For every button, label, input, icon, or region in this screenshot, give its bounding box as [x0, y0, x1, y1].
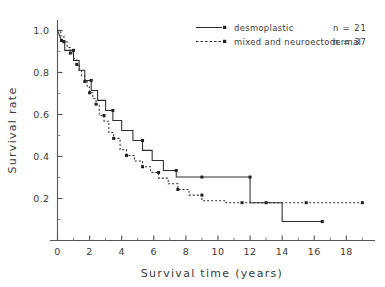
x-tick-label: 8 [183, 246, 189, 257]
y-axis-tick-labels: 0.20.40.60.81.0 [33, 25, 49, 204]
x-axis-title: Survival time (years) [141, 267, 283, 280]
x-tick-label: 4 [118, 246, 124, 257]
censor-mark [95, 103, 98, 106]
censor-marks [60, 39, 364, 223]
censor-mark [72, 49, 75, 52]
x-tick-label: 2 [86, 246, 92, 257]
y-axis-title: Survival rate [6, 86, 19, 173]
kaplan-meier-plot: 0.20.40.60.81.0 024681012141618 Survival… [0, 0, 385, 287]
censor-mark [249, 176, 252, 179]
legend-marker-mixed [223, 40, 226, 43]
censor-mark [103, 114, 106, 117]
censor-mark [141, 139, 144, 142]
x-tick-label: 6 [151, 246, 157, 257]
censor-mark [200, 194, 203, 197]
y-tick-label: 0.2 [33, 193, 49, 204]
x-tick-label: 18 [340, 246, 353, 257]
y-axis-major-ticks [58, 30, 63, 198]
y-tick-label: 0.4 [33, 151, 49, 162]
censor-mark [75, 63, 78, 66]
survival-chart-figure: 0.20.40.60.81.0 024681012141618 Survival… [0, 0, 385, 287]
x-axis-group: 024681012141618 [50, 236, 375, 257]
x-tick-label: 16 [308, 246, 321, 257]
censor-mark [321, 220, 324, 223]
censor-mark [305, 201, 308, 204]
censor-mark [88, 91, 91, 94]
x-tick-label: 12 [244, 246, 257, 257]
censor-mark [200, 176, 203, 179]
x-axis-tick-labels: 024681012141618 [54, 246, 352, 257]
censor-mark [141, 165, 144, 168]
censor-mark [62, 40, 65, 43]
censor-mark [361, 201, 364, 204]
censor-mark [157, 171, 160, 174]
censor-mark [69, 52, 72, 55]
censor-mark [83, 80, 86, 83]
censor-mark [241, 201, 244, 204]
legend: desmoplastic n = 21 mixed and neuroectod… [196, 23, 367, 47]
y-axis-group: 0.20.40.60.81.0 [33, 20, 62, 241]
legend-n-desmoplastic: n = 21 [333, 23, 367, 33]
x-tick-label: 0 [54, 246, 60, 257]
censor-mark [112, 137, 115, 140]
censor-mark [111, 109, 114, 112]
censor-mark [90, 79, 93, 82]
y-tick-label: 1.0 [33, 25, 49, 36]
censor-mark [265, 201, 268, 204]
censor-mark [125, 154, 128, 157]
censor-mark [175, 169, 178, 172]
legend-marker-desmoplastic [223, 26, 226, 29]
censor-mark [176, 188, 179, 191]
x-tick-label: 14 [276, 246, 289, 257]
survival-curves [58, 30, 363, 221]
y-tick-label: 0.8 [33, 67, 49, 78]
y-tick-label: 0.6 [33, 109, 49, 120]
curve-desmoplastic [58, 30, 323, 221]
legend-n-mixed: n = 37 [333, 37, 367, 47]
legend-label-desmoplastic: desmoplastic [234, 23, 294, 33]
x-tick-label: 10 [212, 246, 225, 257]
